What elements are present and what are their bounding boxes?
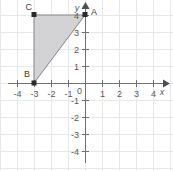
x-tick-label--2: -2: [47, 89, 55, 99]
y-axis-label: y: [74, 3, 80, 13]
y-tick-label--4: -4: [71, 147, 79, 157]
y-tick-label-2: 2: [74, 45, 79, 55]
vertex-point-C: [32, 12, 37, 17]
axis-lines: [8, 8, 163, 163]
vertex-point-A: [83, 12, 88, 17]
x-tick-label--3: -3: [30, 89, 38, 99]
y-axis-arrow: [82, 2, 90, 9]
x-tick-label-2: 2: [117, 89, 122, 99]
grid-lines: [0, 0, 173, 171]
x-tick-label-4: 4: [151, 89, 156, 99]
y-tick-label-3: 3: [74, 28, 79, 38]
x-tick-label-3: 3: [134, 89, 139, 99]
y-tick-label--2: -2: [71, 113, 79, 123]
x-tick-label-1: 1: [100, 89, 105, 99]
vertex-label-B: B: [24, 69, 30, 79]
vertex-label-C: C: [26, 2, 33, 12]
x-tick-label--4: -4: [13, 89, 21, 99]
origin-label: 0: [77, 86, 82, 96]
y-tick-label--1: -1: [71, 96, 79, 106]
vertex-label-A: A: [91, 7, 97, 17]
x-axis-label: x: [159, 87, 165, 97]
vertex-point-B: [32, 81, 37, 86]
y-tick-label--3: -3: [71, 130, 79, 140]
coordinate-plane-svg: -4 -3 -2 -1 1 2 3 4 4 3 2 1 -1 -2 -3 -4 …: [0, 0, 173, 171]
coordinate-plane-figure: -4 -3 -2 -1 1 2 3 4 4 3 2 1 -1 -2 -3 -4 …: [0, 0, 173, 171]
y-tick-label-1: 1: [74, 62, 79, 72]
